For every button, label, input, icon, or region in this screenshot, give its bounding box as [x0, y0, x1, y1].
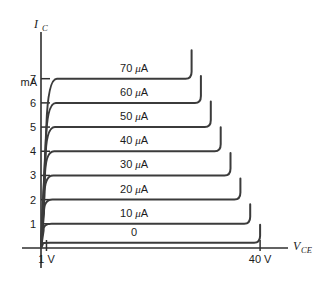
- curve-label-10ua: 10 μA: [120, 207, 149, 219]
- chart-plot-area: 1234567 1 V40 V mA I C V CE 010 μA20 μA3…: [0, 0, 332, 285]
- curve-label-60ua: 60 μA: [120, 86, 149, 98]
- curve-label-20ua: 20 μA: [120, 183, 149, 195]
- curve-70ua: [41, 50, 192, 248]
- y-tick-label: 3: [30, 169, 36, 181]
- x-tick-label: 1 V: [38, 253, 55, 265]
- y-axis-unit-label: mA: [21, 76, 38, 88]
- y-axis-tick-labels: 1234567: [30, 73, 36, 230]
- curve-label-70ua: 70 μA: [120, 62, 149, 74]
- curve-0ua: [41, 225, 260, 248]
- curve-label-0ua: 0: [131, 226, 137, 238]
- curve-label-50ua: 50 μA: [120, 110, 149, 122]
- curve-label-30ua: 30 μA: [120, 158, 149, 170]
- x-axis-title: V CE: [293, 239, 313, 255]
- y-tick-label: 4: [30, 145, 36, 157]
- x-axis-title-subscript: CE: [301, 245, 313, 255]
- y-tick-label: 6: [30, 97, 36, 109]
- x-axis-tick-labels: 1 V40 V: [38, 253, 272, 265]
- transistor-output-characteristics-chart: 1234567 1 V40 V mA I C V CE 010 μA20 μA3…: [0, 0, 332, 285]
- y-tick-label: 2: [30, 194, 36, 206]
- x-axis-ticks: [46, 240, 260, 251]
- y-axis-title-subscript: C: [42, 23, 48, 33]
- curves-group: [41, 50, 260, 248]
- curve-label-40ua: 40 μA: [120, 134, 149, 146]
- y-axis-title-symbol: I: [33, 17, 39, 31]
- y-tick-label: 5: [30, 121, 36, 133]
- x-tick-label: 40 V: [249, 253, 272, 265]
- curve-labels-group: 010 μA20 μA30 μA40 μA50 μA60 μA70 μA: [120, 62, 149, 238]
- axes-group: [22, 32, 288, 268]
- y-tick-label: 1: [30, 218, 36, 230]
- y-axis-title: I C: [33, 17, 48, 33]
